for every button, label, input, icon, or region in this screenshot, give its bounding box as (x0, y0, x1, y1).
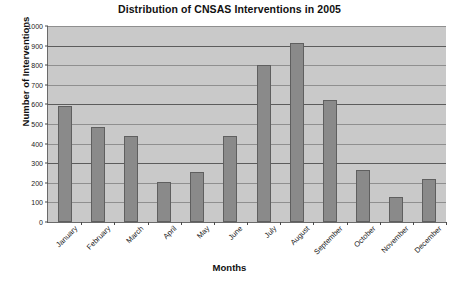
bar-september (323, 100, 337, 223)
chart-title: Distribution of CNSAS Interventions in 2… (0, 3, 459, 15)
x-label-april: April (161, 224, 178, 241)
x-label-december: December (413, 224, 444, 255)
x-label-march: March (124, 224, 145, 245)
x-label-august: August (288, 224, 311, 247)
y-tick-label: 1000 (27, 23, 43, 30)
x-label-february: February (85, 224, 113, 252)
y-tick-label: 100 (31, 199, 43, 206)
bar-august (290, 43, 304, 222)
x-label-may: May (195, 224, 211, 240)
bar-january (58, 106, 72, 222)
x-label-october: October (352, 224, 377, 249)
bar-may (190, 172, 204, 222)
y-tick-label: 600 (31, 101, 43, 108)
x-axis-category-labels: JanuaryFebruaryMarchAprilMayJuneJulyAugu… (47, 224, 445, 262)
x-label-november: November (380, 224, 411, 255)
y-tick-label: 200 (31, 179, 43, 186)
y-tick-label: 500 (31, 121, 43, 128)
y-tick-label: 0 (39, 219, 43, 226)
x-label-june: June (227, 224, 245, 242)
x-axis-title: Months (0, 262, 459, 273)
x-label-july: July (262, 224, 278, 240)
bar-april (157, 182, 171, 222)
bar-november (389, 197, 403, 222)
x-label-september: September (312, 224, 344, 256)
bar-chart-figure: Distribution of CNSAS Interventions in 2… (0, 0, 459, 287)
bar-march (124, 136, 138, 222)
bar-july (257, 65, 271, 222)
x-label-january: January (54, 224, 79, 249)
y-tick-label: 800 (31, 62, 43, 69)
y-tick-label: 400 (31, 140, 43, 147)
plot-area: 01002003004005006007008009001000 (47, 26, 446, 223)
y-tick-label: 300 (31, 160, 43, 167)
bars-layer (48, 26, 446, 222)
bar-june (223, 136, 237, 222)
bar-february (91, 127, 105, 222)
y-tick-label: 900 (31, 42, 43, 49)
bar-december (422, 179, 436, 222)
x-tick-mark (446, 222, 447, 225)
y-tick-label: 700 (31, 81, 43, 88)
bar-october (356, 170, 370, 222)
